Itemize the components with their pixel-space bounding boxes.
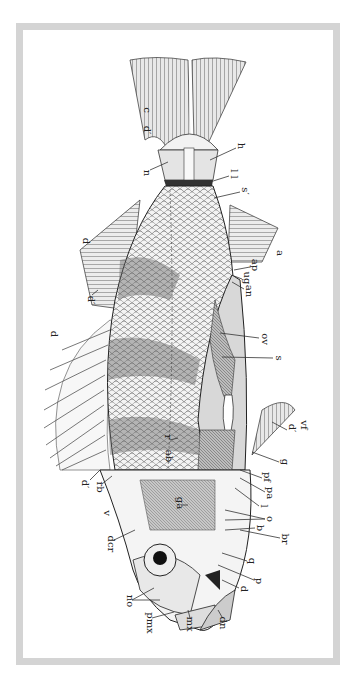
label-pmx: pmx bbox=[145, 612, 156, 634]
label-no: no bbox=[125, 595, 136, 607]
label-ov: ov bbox=[260, 333, 271, 345]
label-s-scale: s′ bbox=[240, 187, 251, 195]
label-o: o bbox=[265, 516, 276, 522]
label-vf: vf bbox=[299, 419, 310, 431]
fish-head bbox=[100, 470, 251, 631]
label-ug: ug bbox=[242, 272, 253, 285]
label-h: h bbox=[236, 143, 247, 150]
label-p: p bbox=[254, 578, 265, 584]
label-n: n bbox=[142, 170, 153, 177]
label-r: r bbox=[163, 435, 174, 440]
anal-fin bbox=[228, 205, 278, 262]
label-ab: ab bbox=[164, 450, 175, 462]
label-c: c bbox=[142, 107, 153, 113]
label-br: br bbox=[280, 533, 291, 544]
label-pf: pf bbox=[262, 472, 273, 483]
label-l: l bbox=[259, 504, 270, 507]
label-v: v bbox=[102, 509, 113, 516]
label-dcr: dcr bbox=[106, 536, 117, 553]
label-an: an bbox=[244, 285, 255, 298]
label-rb: rb bbox=[95, 481, 106, 492]
label-pa: pa bbox=[265, 487, 276, 499]
fish-illustration: cd′nhl ls′dd′daapuganovsd′vfrabgd′rbpfpa… bbox=[0, 0, 352, 682]
label-dn: dn bbox=[218, 617, 229, 630]
caudal-fin bbox=[130, 58, 246, 151]
label-a: a bbox=[275, 250, 286, 256]
label-ap: ap bbox=[250, 259, 261, 271]
label-ga: ga bbox=[175, 497, 186, 509]
label-d-prime-ventral: d′ bbox=[287, 424, 298, 433]
label-b: b bbox=[255, 525, 266, 531]
caudal-peduncle bbox=[158, 148, 218, 186]
label-ll: l l bbox=[229, 169, 240, 179]
label-d-prime-second-dorsal: d′ bbox=[86, 296, 97, 305]
label-q: q bbox=[247, 558, 258, 565]
label-d-first-dorsal: d bbox=[49, 331, 60, 338]
anatomy-plate: cd′nhl ls′dd′daapuganovsd′vfrabgd′rbpfpa… bbox=[0, 0, 352, 682]
label-mx: mx bbox=[185, 616, 196, 631]
label-d-prime-spine: d′ bbox=[80, 480, 91, 489]
label-d-prime-caudal: d′ bbox=[142, 126, 153, 135]
label-d-jaw: d bbox=[239, 586, 250, 593]
label-g: g bbox=[280, 459, 291, 466]
label-s-stomach: s bbox=[274, 355, 285, 360]
label-d-second-dorsal: d bbox=[81, 238, 92, 245]
